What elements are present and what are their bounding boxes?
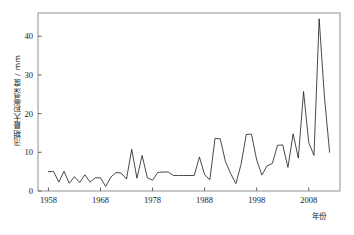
chart-container: 汛期最大积雪深度 / mm 年份 010203040 1958196819781… <box>0 0 354 235</box>
x-tick-label: 1978 <box>144 195 161 205</box>
x-axis-title: 年份 <box>312 210 327 221</box>
y-axis-ticks: 010203040 <box>25 31 42 196</box>
x-tick-label: 1988 <box>196 195 213 205</box>
data-series-line <box>48 19 329 187</box>
x-tick-label: 1958 <box>40 195 57 205</box>
x-axis-ticks: 195819681978198819982008 <box>40 188 317 206</box>
line-chart-plot: 010203040 195819681978198819982008 <box>0 0 354 235</box>
x-tick-label: 1968 <box>92 195 109 205</box>
y-axis-title: 汛期最大积雪深度 / mm <box>10 18 26 183</box>
plot-frame <box>38 13 340 191</box>
y-tick-label: 0 <box>29 186 33 196</box>
x-tick-label: 1998 <box>248 195 265 205</box>
x-tick-label: 2008 <box>300 195 317 205</box>
